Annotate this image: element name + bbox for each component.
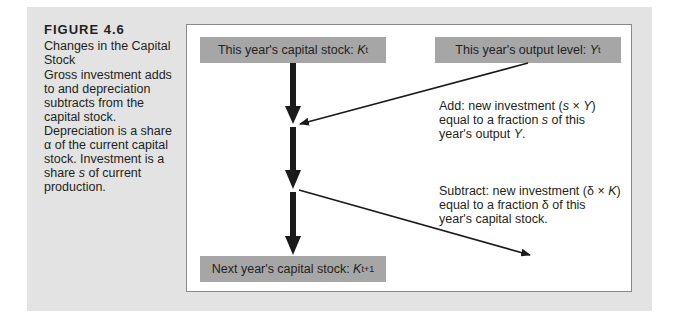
box-current-capital-stock: This year's capital stock: Kt [200,37,386,63]
note-var-k: K [608,184,616,198]
diagram-area [186,24,632,292]
box-next-capital-stock: Next year's capital stock: Kt+1 [200,256,386,282]
note-text: year's capital stock. [439,212,621,226]
note-add-investment: Add: new investment (s × Y) equal to a f… [439,99,596,141]
box-label: Next year's capital stock: [212,262,350,276]
note-text: . [522,127,525,141]
figure-description: Gross investment adds to and depreciatio… [44,68,174,194]
figure-caption: FIGURE 4.6 Changes in the Capital Stock … [44,22,174,194]
note-text: ) [592,99,596,113]
box-sub: t+1 [361,264,374,274]
box-label: This year's output level: [455,43,586,57]
note-text: year's output [439,127,514,141]
box-sub: t [366,45,369,55]
note-text: equal to a fraction [439,113,542,127]
box-sub: t [598,45,601,55]
note-var-y: Y [514,127,522,141]
figure-title: Changes in the Capital Stock [44,39,174,67]
box-var: K [353,262,361,276]
note-text: × [569,99,583,113]
note-text: ) [617,184,621,198]
note-subtract-depreciation: Subtract: new investment (δ × K) equal t… [439,184,621,226]
box-var: Y [590,43,598,57]
note-var-y: Y [583,99,591,113]
note-text: equal to a fraction δ of this [439,198,621,212]
note-text: Add: new investment ( [439,99,563,113]
box-var: K [357,43,365,57]
note-text: of this [548,113,585,127]
desc-text-1: Gross investment adds to and depreciatio… [44,68,172,138]
box-output-level: This year's output level: Yt [435,37,621,63]
box-label: This year's capital stock: [218,43,354,57]
note-text: Subtract: new investment (δ × [439,184,608,198]
figure-number: FIGURE 4.6 [44,22,174,37]
